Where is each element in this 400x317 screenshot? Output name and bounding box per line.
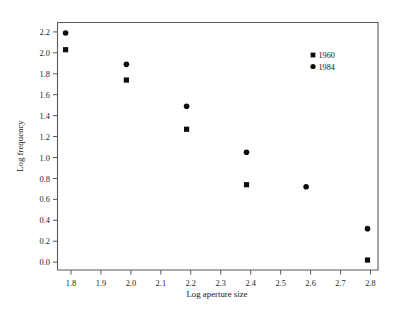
legend-label-1984: 1984 xyxy=(319,63,335,72)
data-point-1960 xyxy=(184,127,189,132)
y-tick-label: 1.2 xyxy=(40,133,50,142)
x-tick-label: 2.1 xyxy=(156,279,166,288)
x-tick-label: 2.3 xyxy=(216,279,226,288)
data-point-1984 xyxy=(124,62,130,68)
chart-svg: 1.81.92.02.12.22.32.42.52.62.72.8 0.00.2… xyxy=(0,0,400,317)
x-tick-label: 2.7 xyxy=(335,279,345,288)
x-tick-label: 2.4 xyxy=(245,279,256,288)
x-tick-label: 1.9 xyxy=(96,279,106,288)
data-point-1960 xyxy=(365,257,370,262)
y-tick-label: 1.8 xyxy=(40,70,50,79)
y-tick-label: 2.2 xyxy=(40,28,50,37)
data-point-1960 xyxy=(244,182,249,187)
x-axis-title: Log aperture size xyxy=(186,289,247,299)
y-tick-label: 0.0 xyxy=(40,258,50,267)
x-tick-label: 2.0 xyxy=(126,279,136,288)
y-tick-label: 0.2 xyxy=(40,237,50,246)
legend-label-1960: 1960 xyxy=(319,51,335,60)
x-tick-label: 2.2 xyxy=(186,279,196,288)
y-tick-label: 1.6 xyxy=(40,91,50,100)
data-point-1984 xyxy=(303,184,309,190)
data-point-1984 xyxy=(244,149,250,155)
data-point-1984 xyxy=(63,30,69,36)
data-point-1984 xyxy=(184,103,190,109)
y-tick-label: 2.0 xyxy=(40,49,50,58)
y-axis-title: Log frequency xyxy=(15,120,25,172)
y-tick-label: 0.8 xyxy=(40,175,50,184)
x-tick-label: 2.8 xyxy=(365,279,375,288)
data-point-1960 xyxy=(124,77,129,82)
legend-marker-1960 xyxy=(311,53,316,58)
legend-marker-1984 xyxy=(310,64,315,69)
y-tick-label: 1.4 xyxy=(40,112,51,121)
x-tick-label: 1.8 xyxy=(66,279,76,288)
x-tick-label: 2.6 xyxy=(305,279,315,288)
data-point-1960 xyxy=(63,47,68,52)
data-point-1984 xyxy=(365,226,371,232)
scatter-chart-figure: 1.81.92.02.12.22.32.42.52.62.72.8 0.00.2… xyxy=(0,0,400,317)
y-tick-label: 0.6 xyxy=(40,195,50,204)
y-tick-label: 1.0 xyxy=(40,154,50,163)
y-tick-label: 0.4 xyxy=(40,216,51,225)
x-tick-label: 2.5 xyxy=(275,279,285,288)
